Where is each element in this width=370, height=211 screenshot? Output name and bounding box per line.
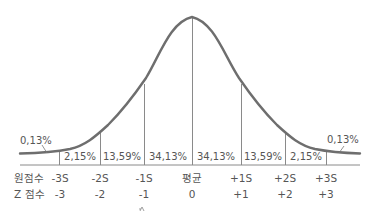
raw-score-tick: 평균 [182,172,202,184]
segment-label: 34,13% [197,151,235,162]
segment-label: 2,15% [64,151,96,162]
tail-label-left: 0,13% [20,135,52,146]
z-score-tick: 0 [189,188,196,200]
raw-score-tick: +1S [230,172,252,184]
segment-label: 34,13% [149,151,187,162]
raw-score-labels: -3S -2S -1S 평균 +1S +2S +3S [51,172,337,184]
z-score-tick: +3 [318,188,333,200]
z-score-tick: +1 [233,188,248,200]
z-score-tick: -2 [95,188,105,200]
z-score-labels: -3 -2 -1 0 +1 +2 +3 [55,188,334,200]
z-score-row-label: Z 점수 [14,188,45,200]
raw-score-tick: +2S [274,172,296,184]
z-score-tick: -3 [55,188,65,200]
raw-score-tick: -2S [91,172,108,184]
raw-score-tick: +3S [315,172,337,184]
segment-label: 13,59% [103,151,141,162]
normal-distribution-chart: 0,13% 0,13% 2,15% 13,59% 34,13% 34,13% 1… [0,0,370,211]
raw-score-row-label: 원점수 [14,172,44,184]
z-score-tick: +2 [277,188,292,200]
sd-lines [60,17,327,165]
tail-label-right: 0,13% [327,134,359,145]
z-score-tick: -1 [139,188,149,200]
segment-label: 2,15% [290,151,322,162]
segment-label: 13,59% [244,151,282,162]
raw-score-tick: -1S [135,172,152,184]
cropped-mark [139,207,144,211]
raw-score-tick: -3S [51,172,68,184]
bell-curve [20,17,360,154]
